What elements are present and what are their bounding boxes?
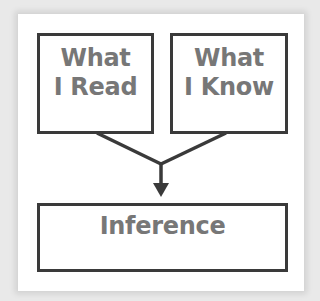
inference-box: Inference — [37, 203, 288, 272]
what-i-know-line2: I Know — [173, 73, 285, 102]
what-i-know-line1: What — [173, 44, 285, 73]
what-i-read-line1: What — [40, 44, 151, 73]
what-i-read-line2: I Read — [40, 73, 151, 102]
what-i-read-box: What I Read — [37, 33, 154, 134]
what-i-know-box: What I Know — [170, 33, 288, 134]
inference-label: Inference — [40, 212, 285, 241]
